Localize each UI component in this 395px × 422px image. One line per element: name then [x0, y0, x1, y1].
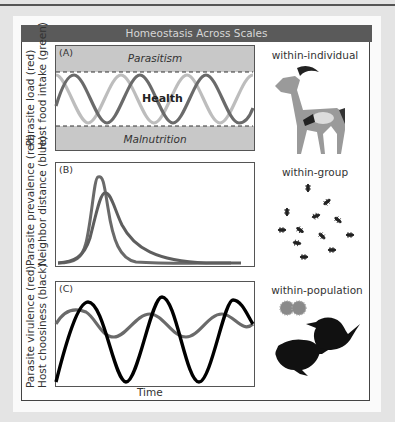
health-label: Health — [142, 92, 183, 105]
ants-icon — [270, 184, 360, 264]
panel-c: (C) — [55, 281, 255, 387]
panel-b: (B) — [55, 162, 255, 267]
panel-c-ylabel: Parasite virulence (red) Host choosiness… — [24, 268, 48, 388]
time-axis-label: Time — [137, 386, 163, 398]
panel-b-ylabel: Parasite prevalence (red) Neighbor dista… — [24, 140, 48, 266]
within-population-label: within-population — [262, 284, 372, 296]
panel-b-ylabel-line1: Parasite prevalence (red) — [24, 140, 36, 266]
gazelle-icon — [267, 64, 347, 144]
within-group-label: within-group — [260, 166, 370, 178]
panel-c-ylabel-line1: Parasite virulence (red) — [24, 268, 36, 388]
birds-icon — [264, 314, 364, 394]
panel-c-ylabel-line2: Host choosiness (black) — [36, 268, 48, 388]
panel-b-ylabel-line2: Neighbor distance (blue) — [36, 140, 48, 266]
host-choosiness-curve — [56, 297, 253, 382]
panel-a-ylabel-line2: Host food intake (green) — [36, 46, 48, 150]
panel-b-curves — [56, 163, 253, 265]
within-individual-label: within-individual — [260, 49, 370, 61]
panel-c-curves — [56, 282, 253, 385]
panel-a: Parasitism Malnutrition (A) Health — [55, 45, 255, 151]
figure-title: Homeostasis Across Scales — [21, 25, 372, 42]
top-rule — [0, 4, 395, 6]
parasite-prevalence-curve — [58, 193, 241, 263]
